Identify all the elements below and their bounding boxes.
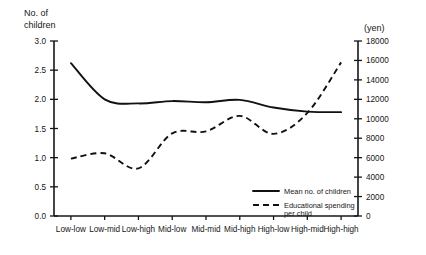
x-axis-group: Low-lowLow-midLow-highMid-lowMid-midMid-… <box>54 216 359 234</box>
x-category-label: Mid-high <box>224 225 256 234</box>
x-category-label: Low-mid <box>89 225 120 234</box>
right-tick-label: 10000 <box>366 115 389 124</box>
left-axis-title-line1: No. of <box>24 8 49 18</box>
x-category-label: High-high <box>324 225 359 234</box>
left-tick-label: 3.0 <box>35 37 47 46</box>
series-line-educational-spending <box>71 62 341 168</box>
right-tick-label: 8000 <box>366 134 385 143</box>
right-axis-group: 0200040006000800010000120001400016000180… <box>354 37 389 221</box>
right-tick-label: 14000 <box>366 76 389 85</box>
x-category-label: Mid-low <box>158 225 186 234</box>
x-axis-category-labels: Low-lowLow-midLow-highMid-lowMid-midMid-… <box>56 225 359 234</box>
x-category-label: High-mid <box>291 225 324 234</box>
series-line-mean-children <box>71 63 341 112</box>
x-category-label: High-low <box>258 225 290 234</box>
left-tick-label: 1.0 <box>35 154 47 163</box>
right-axis-ticks: 0200040006000800010000120001400016000180… <box>354 37 389 221</box>
left-tick-label: 2.5 <box>35 66 47 75</box>
right-tick-label: 0 <box>366 212 371 221</box>
legend-label-mean-children: Mean no. of children <box>284 187 351 196</box>
left-tick-label: 0.5 <box>35 183 47 192</box>
right-tick-label: 16000 <box>366 56 389 65</box>
right-axis-title: (yen) <box>364 23 385 33</box>
x-category-label: Low-low <box>56 225 86 234</box>
x-category-label: Mid-mid <box>191 225 221 234</box>
left-axis-title-line2: children <box>24 20 56 30</box>
chart-container: 0.00.51.01.52.02.53.0 020004000600080001… <box>0 0 426 255</box>
left-tick-label: 2.0 <box>35 95 47 104</box>
right-tick-label: 18000 <box>366 37 389 46</box>
right-tick-label: 2000 <box>366 193 385 202</box>
legend: Mean no. of children Educational spendin… <box>253 187 355 218</box>
left-tick-label: 1.5 <box>35 125 47 134</box>
legend-label-educational-spending-line2: per child <box>284 209 312 218</box>
left-tick-label: 0.0 <box>35 212 47 221</box>
right-tick-label: 6000 <box>366 154 385 163</box>
chart-canvas: 0.00.51.01.52.02.53.0 020004000600080001… <box>0 0 426 255</box>
x-category-label: Low-high <box>122 225 156 234</box>
plot-series-group <box>71 62 341 168</box>
right-tick-label: 4000 <box>366 173 385 182</box>
right-tick-label: 12000 <box>366 95 389 104</box>
left-axis-group: 0.00.51.01.52.02.53.0 <box>35 37 58 221</box>
